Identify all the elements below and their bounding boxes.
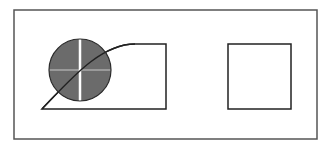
diagram-canvas (0, 0, 332, 149)
right-square (228, 44, 291, 109)
crosshair-circle (42, 39, 135, 109)
